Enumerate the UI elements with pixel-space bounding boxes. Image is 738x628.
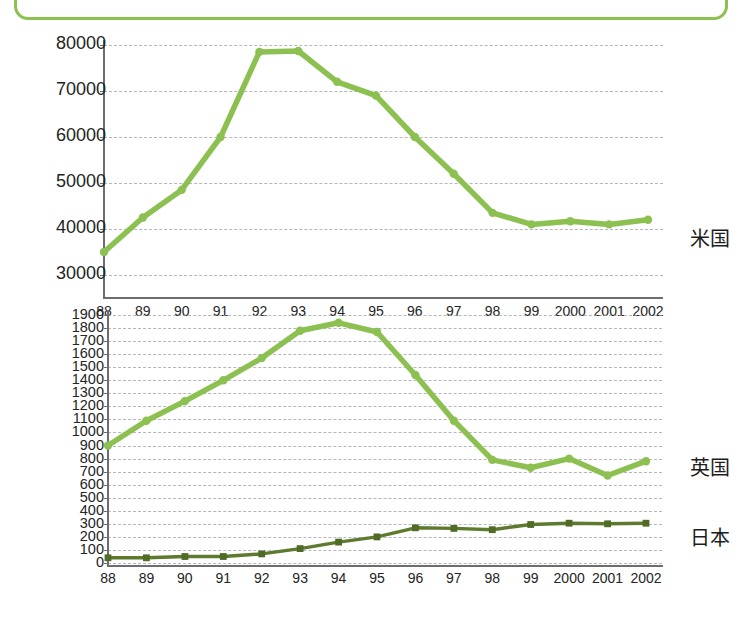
data-point [181, 397, 189, 405]
data-point [604, 520, 611, 527]
series-line-日本 [108, 523, 646, 558]
chart-page: 資料出所：各国統計 800007000060000500004000030000… [0, 0, 738, 628]
data-point [565, 454, 573, 462]
data-point [219, 376, 227, 384]
data-point [489, 526, 496, 533]
us-line-chart: 800007000060000500004000030000 888990919… [0, 18, 738, 318]
data-point [335, 539, 342, 546]
data-point [527, 521, 534, 528]
data-point [255, 48, 263, 56]
data-point [297, 545, 304, 552]
data-point [216, 133, 224, 141]
data-point [450, 417, 458, 425]
data-point [143, 554, 150, 561]
data-point [258, 354, 266, 362]
series-label-uk: 英国 [690, 452, 730, 481]
data-point [566, 520, 573, 527]
jp-series-canvas [0, 300, 738, 628]
data-point [643, 520, 650, 527]
data-point [333, 78, 341, 86]
data-point [100, 248, 108, 256]
data-point [294, 47, 302, 55]
data-point [644, 216, 652, 224]
data-point [412, 524, 419, 531]
data-point [334, 319, 342, 327]
data-point [220, 553, 227, 560]
data-point [642, 457, 650, 465]
data-point [139, 213, 147, 221]
uk-japan-line-chart: 1900180017001600150014001300120011001000… [0, 300, 738, 628]
data-point [488, 209, 496, 217]
data-point [374, 534, 381, 541]
data-point [373, 328, 381, 336]
data-point [411, 133, 419, 141]
data-point [258, 551, 265, 558]
series-line-英国 [108, 323, 646, 476]
data-point [105, 554, 112, 561]
data-point [411, 371, 419, 379]
data-point [603, 471, 611, 479]
data-point [178, 186, 186, 194]
data-point [527, 220, 535, 228]
data-point [488, 456, 496, 464]
data-point [372, 91, 380, 99]
data-point [566, 217, 574, 225]
data-point [450, 170, 458, 178]
decorative-banner-frame [14, 0, 728, 20]
data-point [451, 525, 458, 532]
data-point [527, 464, 535, 472]
us-series-canvas [0, 18, 738, 318]
data-point [142, 417, 150, 425]
data-point [605, 220, 613, 228]
data-point [296, 327, 304, 335]
series-label-us: 米国 [690, 223, 730, 252]
data-point [182, 553, 189, 560]
data-point [104, 441, 112, 449]
series-label-japan: 日本 [690, 522, 730, 551]
